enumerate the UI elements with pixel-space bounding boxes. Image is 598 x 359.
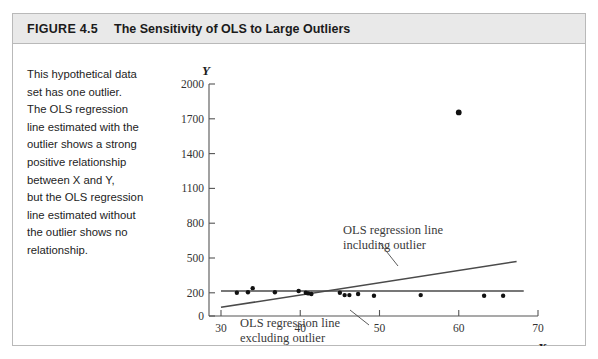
- y-tick-label: 2000: [181, 78, 204, 90]
- annotation-excluding-line1: OLS regression line: [240, 316, 340, 330]
- outlier-data-point: [456, 110, 462, 116]
- axis-lines: [209, 84, 538, 316]
- scatter-plot: 02005008001100140017002000 3040506070 Y …: [13, 44, 587, 346]
- x-tick-label: 50: [374, 322, 386, 334]
- data-point: [482, 294, 486, 298]
- regression-line-including-outlier: [221, 261, 517, 307]
- regression-lines: [221, 261, 524, 307]
- data-point: [372, 294, 376, 298]
- y-axis-title: Y: [202, 63, 211, 78]
- y-tick-label: 1700: [181, 113, 204, 125]
- plot-svg: 02005008001100140017002000 3040506070 Y …: [13, 44, 587, 346]
- x-axis-title: X: [537, 340, 547, 346]
- data-point: [501, 294, 505, 298]
- figure-box: FIGURE 4.5 The Sensitivity of OLS to Lar…: [12, 13, 586, 346]
- data-point: [338, 291, 342, 295]
- data-point: [309, 292, 313, 296]
- data-point: [356, 292, 360, 296]
- data-point: [296, 289, 300, 293]
- x-tick-label: 70: [532, 322, 544, 334]
- y-tick-label: 200: [187, 287, 205, 299]
- y-tick-label: 0: [198, 310, 204, 322]
- y-tick-label: 500: [187, 252, 205, 264]
- data-point: [419, 293, 423, 297]
- figure-title: The Sensitivity of OLS to Large Outliers: [114, 22, 350, 36]
- annotation-including-line2: including outlier: [343, 238, 427, 252]
- data-point: [235, 291, 239, 295]
- annotation-including-outlier: OLS regression line including outlier: [343, 223, 443, 252]
- y-tick-label: 800: [187, 217, 205, 229]
- x-tick-label: 60: [453, 322, 465, 334]
- leader-line-excluding: [350, 310, 369, 325]
- data-point: [342, 293, 346, 297]
- figure-root: FIGURE 4.5 The Sensitivity of OLS to Lar…: [0, 0, 598, 359]
- annotation-excluding-line2: excluding outlier: [240, 331, 326, 345]
- data-point: [273, 290, 277, 294]
- figure-body: This hypothetical data set has one outli…: [13, 44, 585, 346]
- data-point: [347, 293, 351, 297]
- x-tick-label: 30: [215, 322, 227, 334]
- annotation-including-line1: OLS regression line: [343, 223, 443, 237]
- annotation-excluding-outlier: OLS regression line excluding outlier: [240, 316, 340, 345]
- data-point: [251, 286, 255, 290]
- data-point: [246, 290, 250, 294]
- figure-header: FIGURE 4.5 The Sensitivity of OLS to Lar…: [13, 14, 585, 44]
- y-axis-ticks: 02005008001100140017002000: [181, 78, 215, 322]
- figure-number-label: FIGURE 4.5: [27, 22, 98, 36]
- y-tick-label: 1400: [181, 148, 204, 160]
- y-tick-label: 1100: [181, 182, 204, 194]
